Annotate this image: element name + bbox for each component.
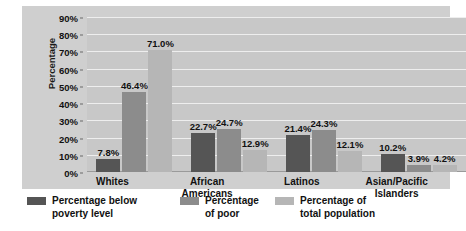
bar[interactable] <box>243 150 267 172</box>
bar-value-label: 12.1% <box>336 139 363 150</box>
legend-label: Percentage below poverty level <box>52 194 137 220</box>
x-axis-category-label: Whites <box>57 176 167 188</box>
y-axis-tick-mark <box>80 52 83 53</box>
y-axis-tick-label: 80% <box>59 30 78 41</box>
bar[interactable] <box>96 159 120 172</box>
bar[interactable] <box>407 165 431 172</box>
plot-area: 7.8%46.4%71.0%22.7%24.7%12.9%21.4%24.3%1… <box>87 17 466 172</box>
y-axis-tick-mark <box>80 18 83 19</box>
legend-swatch <box>180 197 199 205</box>
bar-value-label: 7.8% <box>98 147 120 158</box>
bar[interactable] <box>433 165 457 172</box>
bar[interactable] <box>122 92 146 172</box>
bar-group: 22.7%24.7%12.9% <box>191 17 267 172</box>
x-axis-category-label: Latinos <box>247 176 357 188</box>
y-axis-tick-label: 10% <box>59 150 78 161</box>
bar-value-label: 21.4% <box>284 123 311 134</box>
y-axis-tick-label: 50% <box>59 81 78 92</box>
y-axis-tick-mark <box>80 86 83 87</box>
bar-value-label: 22.7% <box>190 121 217 132</box>
bar[interactable] <box>217 129 241 172</box>
y-axis-tick-mark <box>80 35 83 36</box>
bar-value-label: 4.2% <box>434 153 456 164</box>
y-axis-tick-mark <box>80 155 83 156</box>
bar[interactable] <box>381 154 405 172</box>
bar-value-label: 46.4% <box>121 80 148 91</box>
y-axis-tick-label: 70% <box>59 47 78 58</box>
bar[interactable] <box>148 50 172 172</box>
bar[interactable] <box>286 135 310 172</box>
bar-group: 7.8%46.4%71.0% <box>96 17 172 172</box>
chart-legend: Percentage below poverty levelPercentage… <box>22 194 452 228</box>
legend-label: Percentage of poor <box>205 194 259 220</box>
legend-item[interactable]: Percentage of poor <box>180 194 259 220</box>
y-axis-tick-label: 60% <box>59 64 78 75</box>
y-axis-tick-mark <box>80 173 83 174</box>
bar-value-label: 24.7% <box>216 117 243 128</box>
bar-value-label: 24.3% <box>310 118 337 129</box>
bar-group: 21.4%24.3%12.1% <box>286 17 362 172</box>
legend-item[interactable]: Percentage of total population <box>275 194 375 220</box>
bar[interactable] <box>312 130 336 172</box>
legend-label: Percentage of total population <box>300 194 375 220</box>
bar-value-label: 3.9% <box>408 153 430 164</box>
bar[interactable] <box>338 151 362 172</box>
y-axis-tick-label: 20% <box>59 133 78 144</box>
bar-group: 10.2%3.9%4.2% <box>381 17 457 172</box>
legend-item[interactable]: Percentage below poverty level <box>27 194 137 220</box>
y-axis-tick-label: 40% <box>59 99 78 110</box>
legend-swatch <box>27 197 46 205</box>
bar-value-label: 12.9% <box>242 138 269 149</box>
y-axis-tick-mark <box>80 138 83 139</box>
y-axis-tick-labels: 90%80%70%60%50%40%30%20%10%0% <box>44 12 84 172</box>
bar-value-label: 10.2% <box>379 142 406 153</box>
bar[interactable] <box>191 133 215 172</box>
y-axis-tick-mark <box>80 69 83 70</box>
y-axis-tick-mark <box>80 104 83 105</box>
chart-panel: Percentage 90%80%70%60%50%40%30%20%10%0%… <box>22 6 450 189</box>
y-axis-tick-label: 30% <box>59 116 78 127</box>
bar-value-label: 71.0% <box>147 38 174 49</box>
y-axis-tick-label: 90% <box>59 13 78 24</box>
y-axis-tick-mark <box>80 121 83 122</box>
legend-swatch <box>275 197 294 205</box>
